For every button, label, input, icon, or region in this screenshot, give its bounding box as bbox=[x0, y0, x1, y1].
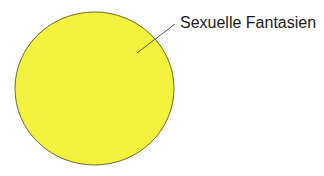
set-label: Sexuelle Fantasien bbox=[180, 13, 316, 33]
set-circle-sexuelle-fantasien bbox=[15, 12, 174, 165]
diagram-canvas: Sexuelle Fantasien bbox=[0, 0, 324, 176]
